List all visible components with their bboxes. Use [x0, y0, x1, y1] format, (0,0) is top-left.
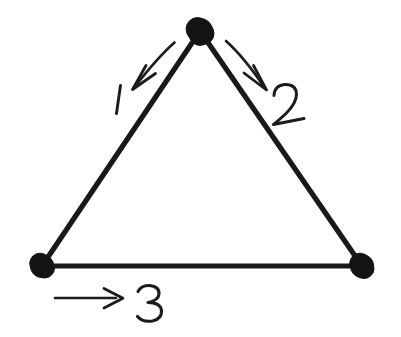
- labels-group: [117, 84, 305, 321]
- edges-group: [42, 31, 362, 266]
- edge-label-3: [138, 285, 162, 321]
- triangle-diagram-svg: [0, 0, 401, 337]
- diagram-canvas: Triangle with three directed edges: [0, 0, 401, 337]
- edge-line-1[interactable]: [42, 31, 200, 266]
- arrow-3-icon: [55, 289, 123, 309]
- nodes-group: [30, 18, 374, 279]
- edge-label-2: [274, 84, 305, 124]
- edge-line-2[interactable]: [200, 31, 362, 266]
- arrow-2-icon: [226, 41, 267, 90]
- node-bottom-right[interactable]: [350, 253, 374, 278]
- edge-label-1: [117, 86, 121, 114]
